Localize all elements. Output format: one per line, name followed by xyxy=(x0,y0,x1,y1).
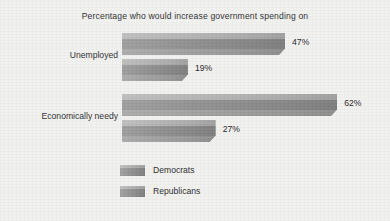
bar-value-label: 62% xyxy=(344,98,361,108)
bar-chart: Percentage who would increase government… xyxy=(0,0,390,221)
bar-republicans[interactable] xyxy=(122,59,188,81)
bar-value-label: 19% xyxy=(195,63,212,73)
bar-republicans[interactable] xyxy=(122,120,216,142)
bar-value-label: 27% xyxy=(223,124,240,134)
legend-swatch-icon xyxy=(120,186,145,197)
legend-label: Republicans xyxy=(153,186,200,196)
category-label: Unemployed xyxy=(0,50,118,60)
category-label: Economically needy xyxy=(0,111,118,121)
bar-democrats[interactable] xyxy=(122,33,285,55)
bar-democrats[interactable] xyxy=(122,94,337,116)
bar-value-label: 47% xyxy=(292,37,309,47)
legend-label: Democrats xyxy=(153,165,195,175)
legend-swatch-icon xyxy=(120,165,145,176)
